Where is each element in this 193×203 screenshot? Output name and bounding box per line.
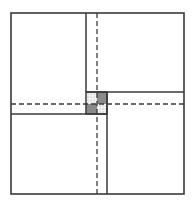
pinwheel-square-diagram [0, 0, 193, 203]
top-right-cell [97, 92, 107, 104]
bottom-left-cell [86, 104, 97, 114]
dashed-lines [11, 13, 184, 194]
top-left-cell [86, 92, 97, 104]
bottom-right-cell [97, 104, 107, 114]
